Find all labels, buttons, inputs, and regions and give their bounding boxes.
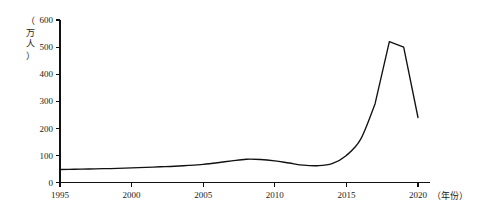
- chart-canvas: 0100200300400500600 19952000200520102015…: [0, 0, 482, 219]
- y-axis-ticks: [56, 20, 60, 183]
- y-tick-label-400: 400: [40, 69, 54, 79]
- data-series-group: [60, 42, 418, 170]
- x-tick-label-2015: 2015: [337, 190, 356, 200]
- y-axis-title-char-3: ）: [26, 51, 35, 61]
- x-axis-title: （年份）: [432, 190, 468, 201]
- y-axis-title-char-0: （: [26, 16, 35, 26]
- y-tick-label-600: 600: [40, 15, 54, 25]
- x-axis-group: 199520002005201020152020: [51, 183, 430, 200]
- line-chart-figure: 0100200300400500600 19952000200520102015…: [0, 0, 482, 219]
- y-axis-title: （万人）: [26, 16, 35, 61]
- y-axis-title-chars: （万人）: [26, 16, 35, 61]
- x-axis-ticks: [60, 183, 418, 187]
- y-tick-label-200: 200: [40, 124, 54, 134]
- y-tick-label-500: 500: [40, 42, 54, 52]
- x-tick-label-2000: 2000: [123, 190, 142, 200]
- y-axis-group: 0100200300400500600: [40, 15, 61, 188]
- y-tick-label-0: 0: [49, 178, 54, 188]
- x-tick-label-2005: 2005: [194, 190, 213, 200]
- x-tick-label-2020: 2020: [409, 190, 428, 200]
- x-axis-tick-labels: 199520002005201020152020: [51, 190, 428, 200]
- y-tick-label-300: 300: [40, 96, 54, 106]
- y-axis-title-char-2: 人: [26, 39, 35, 49]
- y-tick-label-100: 100: [40, 151, 54, 161]
- y-axis-tick-labels: 0100200300400500600: [40, 15, 54, 188]
- series-line-people: [60, 42, 418, 170]
- y-axis-title-char-1: 万: [26, 28, 35, 38]
- x-tick-label-2010: 2010: [266, 190, 285, 200]
- x-tick-label-1995: 1995: [51, 190, 70, 200]
